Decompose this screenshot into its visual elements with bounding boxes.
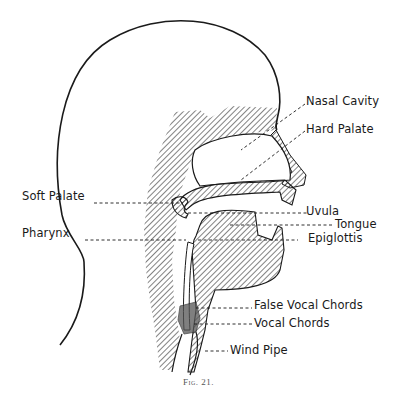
label-soft-palate: Soft Palate bbox=[22, 191, 85, 203]
label-epiglottis: Epiglottis bbox=[308, 233, 363, 245]
label-pharynx: Pharynx bbox=[22, 228, 70, 240]
larynx-chords bbox=[178, 302, 200, 334]
label-tongue: Tongue bbox=[335, 219, 377, 231]
figure-caption: Fig. 21. bbox=[183, 378, 214, 387]
label-uvula: Uvula bbox=[306, 206, 339, 218]
label-false-vocal-chords: False Vocal Chords bbox=[254, 300, 363, 312]
anatomy-diagram: Nasal Cavity Hard Palate Soft Palate Pha… bbox=[0, 0, 402, 405]
label-hard-palate: Hard Palate bbox=[306, 124, 374, 136]
hard-palate bbox=[180, 180, 296, 210]
label-vocal-chords: Vocal Chords bbox=[254, 318, 330, 330]
label-nasal-cavity: Nasal Cavity bbox=[306, 96, 379, 108]
label-wind-pipe: Wind Pipe bbox=[230, 345, 288, 357]
